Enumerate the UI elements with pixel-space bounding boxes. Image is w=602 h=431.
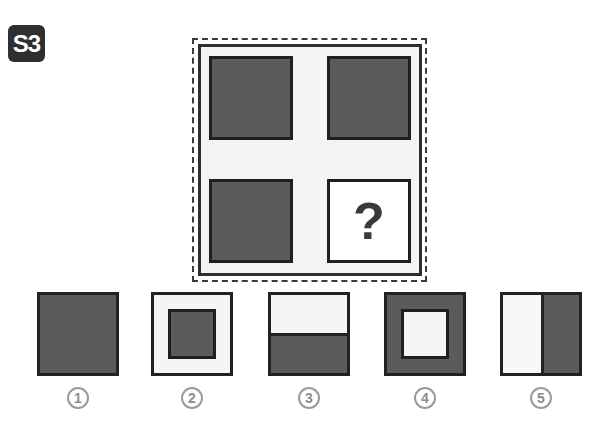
question-mark-icon: ? (330, 182, 408, 260)
option-number-1[interactable]: 1 (67, 387, 89, 409)
puzzle-grid: ? (198, 44, 422, 276)
answer-option-3[interactable] (268, 292, 350, 376)
grid-cell-bottom-left (209, 179, 293, 263)
option-number-3[interactable]: 3 (298, 387, 320, 409)
option-number-4[interactable]: 4 (414, 387, 436, 409)
left-light-half (503, 295, 544, 373)
puzzle-id-badge: S3 (8, 25, 45, 62)
answer-option-5[interactable] (500, 292, 582, 376)
grid-cell-question: ? (327, 179, 411, 263)
option-number-5[interactable]: 5 (530, 387, 552, 409)
answer-option-4[interactable] (384, 292, 466, 376)
top-light-half (271, 295, 347, 336)
answer-option-1[interactable] (37, 292, 119, 376)
inner-light-square (401, 309, 449, 359)
inner-dark-square (168, 309, 216, 359)
grid-cell-top-right (327, 56, 411, 140)
option-number-2[interactable]: 2 (181, 387, 203, 409)
grid-cell-top-left (209, 56, 293, 140)
answer-option-2[interactable] (151, 292, 233, 376)
